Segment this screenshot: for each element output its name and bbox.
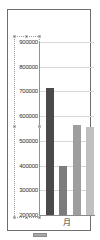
y-axis-line: [39, 41, 40, 216]
chart-screenshot: 2000003000004000005000006000007000008000…: [0, 0, 100, 240]
legend-swatch[interactable]: [33, 233, 47, 237]
y-axis-tick-label: 500000: [19, 138, 39, 144]
bar[interactable]: [59, 166, 67, 215]
resize-handle-top-left[interactable]: [13, 35, 16, 38]
y-axis-tick-label: 800000: [19, 64, 39, 70]
x-axis-line: [39, 215, 95, 216]
bar[interactable]: [46, 88, 54, 215]
resize-handle-middle-left[interactable]: [13, 125, 16, 128]
bar[interactable]: [86, 127, 94, 215]
y-axis-tick-label: 300000: [19, 187, 39, 193]
chart-object-frame[interactable]: 2000003000004000005000006000007000008000…: [7, 9, 91, 231]
bar[interactable]: [73, 125, 81, 215]
resize-handle-top-center[interactable]: [25, 35, 28, 38]
plot-area: [40, 42, 94, 215]
x-axis-label: 月: [40, 218, 94, 228]
y-axis-tick-label: 900000: [19, 39, 39, 45]
y-axis-tick-label: 200000: [19, 212, 39, 218]
y-axis-tick-label: 400000: [19, 163, 39, 169]
y-axis-tick-label: 700000: [19, 88, 39, 94]
resize-handle-bottom-left[interactable]: [13, 216, 16, 219]
y-axis-tick-label: 600000: [19, 113, 39, 119]
bar-series: [40, 42, 94, 215]
resize-handle-top-right[interactable]: [38, 35, 41, 38]
